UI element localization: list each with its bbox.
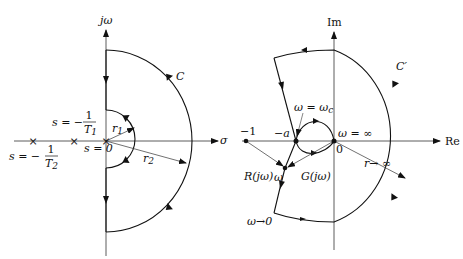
contour-c-label: C <box>176 70 185 83</box>
r-to-inf-label: r→ ∞ <box>364 157 391 170</box>
contour-c-prime <box>274 50 391 222</box>
arc-arrow-icon <box>388 193 398 203</box>
pole-marker: × <box>69 135 78 148</box>
origin-label: 0 <box>336 143 343 156</box>
nyquist-loop <box>296 121 334 153</box>
pole-label-t1: s = − 1 T1 <box>52 109 97 137</box>
omega-to-zero-label: ω→0 <box>247 215 272 228</box>
re-label: Re <box>445 135 460 148</box>
omega-label: ω <box>274 171 283 184</box>
arc-arrow-icon <box>389 78 399 88</box>
omega-c-pointer <box>297 113 303 136</box>
svg-text:1: 1 <box>86 109 93 122</box>
sigma-label: σ <box>220 134 228 147</box>
g-jw-label: G(jω) <box>301 170 331 183</box>
svg-text:s = −: s = − <box>9 150 40 163</box>
omega-c-label: ω = ωc <box>294 101 333 115</box>
down-arrow-icon <box>103 76 109 84</box>
jw-label: jω <box>97 14 112 27</box>
point-minus-a <box>294 139 299 144</box>
down-arrow-icon <box>103 196 109 204</box>
minus-one-label: −1 <box>240 125 256 138</box>
point-minus-one <box>244 139 249 144</box>
r-jw-label: R(jω) <box>243 170 273 183</box>
svg-text:1: 1 <box>48 143 55 156</box>
omega-inf-label: ω = ∞ <box>338 127 372 140</box>
arc-arrow-icon <box>163 71 173 81</box>
im-label: Im <box>327 16 342 29</box>
r1-label: r1 <box>112 122 123 136</box>
r-jw-vector <box>246 141 283 166</box>
svg-text:T1: T1 <box>84 123 97 137</box>
left-s-plane: × × × jω σ C r1 r2 s = − 1 T1 s = − 1 T2… <box>9 14 228 256</box>
loop-arrow-icon <box>313 118 319 124</box>
right-gh-plane: Im Re C′ −1 −a 0 ω = ωc ω = ∞ R(jω) G(jω… <box>240 16 460 250</box>
svg-text:T2: T2 <box>45 157 58 171</box>
point-omega <box>283 166 288 171</box>
svg-text:s = −: s = − <box>52 116 83 129</box>
nyquist-figure: × × × jω σ C r1 r2 s = − 1 T1 s = − 1 T2… <box>0 0 463 259</box>
minus-a-label: −a <box>274 127 290 140</box>
contour-c-prime-label: C′ <box>396 60 407 73</box>
origin-label: s = 0 <box>84 142 113 155</box>
pole-marker: × <box>28 135 37 148</box>
